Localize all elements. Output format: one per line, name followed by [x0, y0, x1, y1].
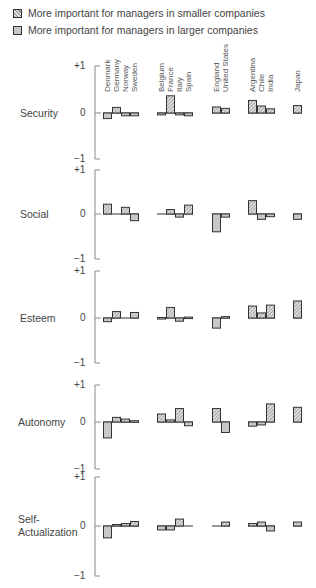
bar-united-states: [222, 317, 230, 319]
bar-italy: [176, 214, 184, 217]
bar-chile: [258, 313, 266, 318]
row-label: Social: [20, 208, 49, 221]
bar-india: [267, 305, 275, 318]
bar-argentina: [249, 100, 257, 113]
country-label: Germany: [113, 59, 121, 92]
country-label: Argentina: [249, 58, 257, 92]
bar-japan: [294, 214, 302, 219]
bar-sweden: [131, 421, 139, 423]
bar-india: [267, 109, 275, 113]
axis-label-top: +1: [74, 59, 85, 72]
bar-italy: [176, 318, 184, 321]
bar-united-states: [222, 422, 230, 433]
bar-japan: [294, 301, 302, 318]
bar-japan: [294, 407, 302, 422]
axis-label-top: +1: [74, 470, 85, 483]
row-label: Esteem: [20, 312, 56, 325]
bar-denmark: [104, 318, 112, 322]
bar-england: [213, 318, 221, 328]
bar-india: [267, 214, 275, 217]
country-label: Chile: [258, 74, 266, 92]
bar-sweden: [131, 522, 139, 526]
axis-label-zero: 0: [80, 519, 86, 532]
bar-india: [267, 404, 275, 422]
axis-label-zero: 0: [80, 106, 86, 119]
bar-denmark: [104, 204, 112, 214]
bar-chile: [258, 106, 266, 113]
panel-autonomy: [95, 385, 302, 469]
bar-denmark: [104, 526, 112, 538]
bar-chile: [258, 522, 266, 526]
bar-united-states: [222, 214, 230, 217]
country-label: Belgium: [158, 63, 166, 92]
bar-france: [167, 210, 175, 214]
country-label: Spain: [185, 72, 193, 92]
bar-italy: [176, 113, 184, 115]
country-label: United States: [222, 44, 230, 92]
axis-label-top: +1: [74, 378, 85, 391]
bar-spain: [185, 113, 193, 116]
country-label: Sweden: [131, 63, 139, 92]
bar-belgium: [158, 318, 166, 320]
bar-norway: [122, 113, 130, 116]
bar-italy: [176, 409, 184, 422]
bar-chile: [258, 214, 266, 219]
country-label: Norway: [122, 65, 130, 92]
bar-argentina: [249, 524, 257, 526]
bar-spain: [185, 205, 193, 214]
bar-united-states: [222, 108, 230, 113]
panel-self-actualization: [95, 477, 302, 576]
row-label: Security: [20, 107, 58, 120]
axis-label-top: +1: [74, 264, 85, 277]
bar-norway: [122, 207, 130, 214]
bar-japan: [294, 522, 302, 526]
bar-spain: [185, 422, 193, 426]
country-label: Japan: [294, 70, 302, 92]
bar-england: [213, 107, 221, 113]
bar-belgium: [158, 113, 166, 115]
bar-norway: [122, 419, 130, 422]
row-label: Self- Actualization: [18, 513, 78, 539]
bar-argentina: [249, 201, 257, 214]
axis-label-zero: 0: [80, 415, 86, 428]
axis-label-zero: 0: [80, 311, 86, 324]
bar-france: [167, 526, 175, 530]
country-label: France: [167, 67, 175, 92]
bar-germany: [113, 107, 121, 113]
axis-label-bottom: −1: [74, 569, 85, 582]
country-label: Italy: [176, 77, 184, 92]
country-label: England: [213, 63, 221, 92]
country-label: India: [267, 75, 275, 92]
bar-india: [267, 526, 275, 531]
bar-united-states: [222, 522, 230, 526]
bar-sweden: [131, 113, 139, 116]
bar-germany: [113, 525, 121, 527]
bar-argentina: [249, 422, 257, 426]
bar-england: [213, 214, 221, 232]
bar-chile: [258, 422, 266, 425]
country-label: Denmark: [104, 60, 112, 92]
axis-label-top: +1: [74, 163, 85, 176]
bar-england: [213, 409, 221, 422]
bar-france: [167, 96, 175, 113]
bar-france: [167, 307, 175, 318]
bar-denmark: [104, 113, 112, 119]
axis-label-bottom: −1: [74, 356, 85, 369]
bar-sweden: [131, 214, 139, 221]
panel-esteem: [95, 271, 302, 363]
axis-label-zero: 0: [80, 207, 86, 220]
row-label: Autonomy: [18, 416, 65, 429]
bar-sweden: [131, 312, 139, 318]
bar-japan: [294, 106, 302, 113]
bar-norway: [122, 524, 130, 526]
panel-social: [95, 170, 302, 259]
bar-germany: [113, 312, 121, 318]
bar-spain: [185, 317, 193, 319]
bar-denmark: [104, 422, 112, 438]
bar-italy: [176, 519, 184, 526]
bar-belgium: [158, 414, 166, 422]
bar-belgium: [158, 526, 166, 530]
bar-argentina: [249, 306, 257, 318]
bar-france: [167, 420, 175, 422]
bar-germany: [113, 417, 121, 422]
